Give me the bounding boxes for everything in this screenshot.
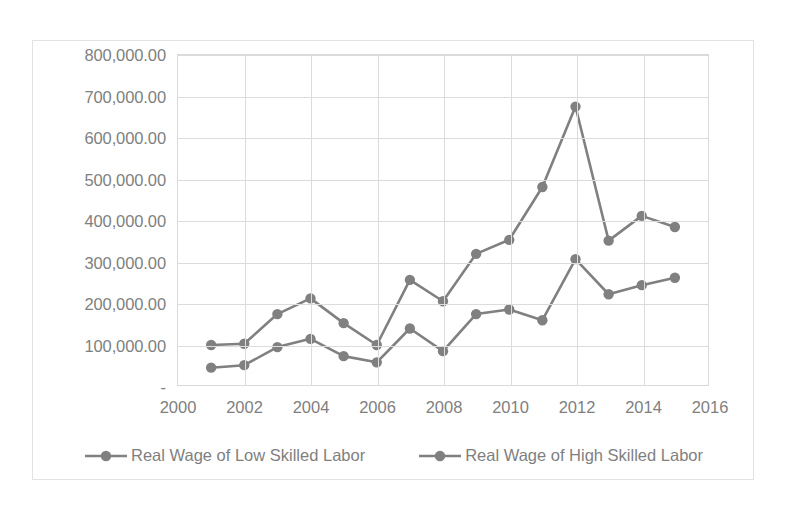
data-point-marker [637, 211, 647, 221]
y-gridline [178, 55, 708, 56]
chart-frame: -100,000.00200,000.00300,000.00400,000.0… [32, 40, 754, 480]
y-axis-tick-label: 700,000.00 [84, 87, 166, 106]
x-gridline [311, 55, 312, 385]
legend-marker-icon [417, 448, 463, 464]
y-gridline [178, 221, 708, 222]
x-gridline [511, 55, 512, 385]
data-point-marker [537, 315, 547, 325]
legend-item[interactable]: Real Wage of High Skilled Labor [417, 446, 703, 465]
data-point-marker [338, 318, 348, 328]
data-point-marker [338, 351, 348, 361]
data-point-marker [670, 273, 680, 283]
chart-legend: Real Wage of Low Skilled LaborReal Wage … [33, 446, 753, 465]
legend-marker-icon [83, 448, 129, 464]
data-point-marker [272, 342, 282, 352]
data-point-marker [206, 363, 216, 373]
x-axis-tick-label: 2006 [359, 398, 396, 417]
y-gridline [178, 97, 708, 98]
data-point-marker [272, 309, 282, 319]
y-axis-tick-label: 200,000.00 [84, 295, 166, 314]
x-gridline [577, 55, 578, 385]
y-gridline [178, 304, 708, 305]
y-axis-tick-label: 300,000.00 [84, 253, 166, 272]
data-point-marker [438, 346, 448, 356]
data-point-marker [504, 235, 514, 245]
x-axis-tick-label: 2010 [492, 398, 529, 417]
y-axis-tick-label: 100,000.00 [84, 336, 166, 355]
y-gridline [178, 180, 708, 181]
y-axis-tick-label: 800,000.00 [84, 46, 166, 65]
x-gridline [644, 55, 645, 385]
x-axis-tick-label: 2014 [625, 398, 662, 417]
y-axis-tick-label: 400,000.00 [84, 212, 166, 231]
legend-item[interactable]: Real Wage of Low Skilled Labor [83, 446, 365, 465]
y-gridline [178, 263, 708, 264]
data-point-marker [471, 249, 481, 259]
data-point-marker [537, 182, 547, 192]
data-point-marker [504, 304, 514, 314]
x-axis-tick-label: 2012 [559, 398, 596, 417]
y-axis-tick-label: - [161, 378, 167, 397]
y-axis-tick-label: 500,000.00 [84, 170, 166, 189]
x-axis-tick-label: 2008 [426, 398, 463, 417]
data-point-marker [603, 289, 613, 299]
data-point-marker [405, 323, 415, 333]
x-axis-tick-label: 2016 [692, 398, 729, 417]
x-axis-tick-label: 2004 [293, 398, 330, 417]
data-point-marker [603, 235, 613, 245]
data-point-marker [471, 309, 481, 319]
series-plot [178, 55, 708, 385]
y-axis-tick-label: 600,000.00 [84, 129, 166, 148]
data-point-marker [670, 222, 680, 232]
legend-label: Real Wage of Low Skilled Labor [131, 446, 365, 465]
y-gridline [178, 346, 708, 347]
x-axis-tick-label: 2002 [226, 398, 263, 417]
x-gridline [444, 55, 445, 385]
x-gridline [245, 55, 246, 385]
x-gridline [378, 55, 379, 385]
legend-label: Real Wage of High Skilled Labor [465, 446, 703, 465]
plot-area: -100,000.00200,000.00300,000.00400,000.0… [177, 54, 709, 386]
data-point-marker [637, 280, 647, 290]
y-gridline [178, 138, 708, 139]
series-line [211, 107, 675, 345]
data-point-marker [570, 101, 580, 111]
data-point-marker [405, 275, 415, 285]
x-axis-tick-label: 2000 [160, 398, 197, 417]
